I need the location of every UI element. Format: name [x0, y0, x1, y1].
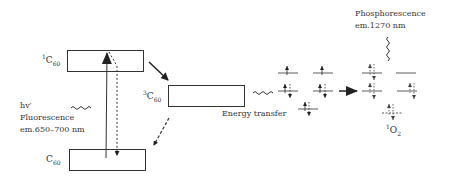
- fluorescence-emission-label: em.650–700 nm: [20, 125, 85, 135]
- triplet-c60-label: 3C60: [143, 89, 161, 103]
- singlet-c60-level: [68, 51, 144, 72]
- energy-transfer-label: Energy transfer: [222, 109, 286, 119]
- ground-c60-level: [70, 150, 146, 171]
- triplet-c60-level: [169, 86, 245, 107]
- singlet-c60-label: 1C60: [42, 53, 60, 67]
- phosphorescence-wave-icon: [387, 37, 390, 61]
- fluorescence-wave-icon: [71, 107, 91, 110]
- triplet-decay-arrow: [154, 118, 169, 145]
- phosphorescence-label: Phosphorescence: [355, 9, 426, 19]
- energy-transfer-wave-icon: [253, 92, 273, 95]
- singlet-oxygen-label: 1O2: [386, 123, 401, 137]
- excitation-label: hv′: [20, 101, 32, 111]
- ground-c60-label: C60: [46, 154, 61, 166]
- fluorescence-label: Fluorescence: [20, 113, 74, 123]
- phosphorescence-emission-label: em.1270 nm: [355, 21, 406, 31]
- isc-arrow: [149, 62, 168, 80]
